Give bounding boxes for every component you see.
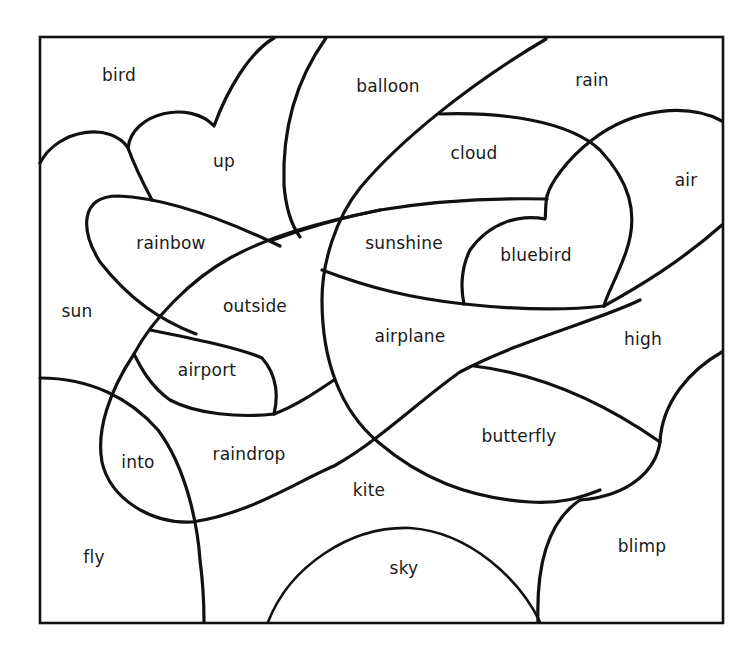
region-label-up[interactable]: up [213, 151, 235, 171]
region-label-rain[interactable]: rain [575, 70, 609, 90]
region-label-into[interactable]: into [121, 452, 154, 472]
region-label-cloud[interactable]: cloud [450, 143, 497, 163]
region-label-high[interactable]: high [624, 329, 662, 349]
region-label-sun[interactable]: sun [61, 301, 92, 321]
high-right-curve [580, 352, 722, 500]
region-label-bluebird[interactable]: bluebird [500, 245, 571, 265]
region-label-rainbow[interactable]: rainbow [136, 233, 205, 253]
region-label-bird[interactable]: bird [102, 65, 136, 85]
balloon-rain-diagonal [322, 39, 600, 502]
region-label-air[interactable]: air [675, 170, 698, 190]
region-label-kite[interactable]: kite [353, 480, 386, 500]
region-label-butterfly[interactable]: butterfly [482, 426, 557, 446]
region-label-airplane[interactable]: airplane [375, 326, 446, 346]
region-label-sunshine[interactable]: sunshine [365, 233, 443, 253]
outside-raindrop-divider [274, 380, 334, 414]
region-label-blimp[interactable]: blimp [618, 536, 667, 556]
balloon-left-edge [284, 38, 326, 237]
region-label-sky[interactable]: sky [390, 558, 419, 578]
region-label-raindrop[interactable]: raindrop [212, 444, 285, 464]
region-label-balloon[interactable]: balloon [356, 76, 420, 96]
fly-outline [40, 378, 204, 622]
region-label-airport[interactable]: airport [178, 360, 236, 380]
coloring-worksheet: bird up balloon rain cloud air rainbow s… [0, 0, 736, 650]
region-label-outside[interactable]: outside [223, 296, 287, 316]
up-heart-outline [40, 38, 274, 163]
region-label-fly[interactable]: fly [83, 547, 104, 567]
blimp-outline [538, 500, 580, 622]
up-left-edge [128, 148, 152, 200]
